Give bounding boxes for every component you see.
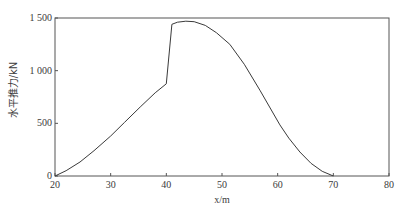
thrust-curve [55,21,333,176]
x-tick-label: 50 [217,179,227,190]
y-tick-label: 1 000 [30,65,53,76]
x-tick-label: 70 [328,179,338,190]
y-tick-label: 500 [37,117,52,128]
y-axis-label-container: 水平推力/kN [2,30,22,150]
x-axis-label: x/m [214,194,230,205]
plot-frame [55,18,389,176]
y-axis-label: 水平推力/kN [5,62,20,119]
y-tick-label: 1 500 [30,12,53,23]
x-tick-label: 30 [106,179,116,190]
chart: 20304050607080 05001 0001 500 x/m [0,0,404,217]
x-tick-label: 60 [273,179,283,190]
x-tick-label: 40 [161,179,171,190]
y-axis-ticks: 05001 0001 500 [30,12,59,181]
y-tick-label: 0 [47,170,52,181]
x-tick-label: 80 [384,179,394,190]
